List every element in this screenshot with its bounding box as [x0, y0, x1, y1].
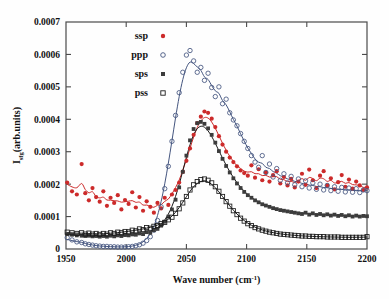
data-point [318, 174, 322, 178]
data-point [289, 210, 293, 214]
data-point [173, 188, 177, 192]
data-point [311, 211, 315, 215]
data-point [210, 133, 214, 137]
data-point [340, 213, 344, 217]
fit-curve-ppp [67, 62, 367, 247]
data-point [127, 202, 131, 206]
data-point [80, 162, 84, 166]
figure-container: 195020002050210021502200 00.00010.00020.… [0, 0, 389, 299]
data-point [253, 160, 257, 164]
data-point [130, 190, 134, 194]
data-point [94, 195, 98, 199]
data-point [296, 211, 300, 215]
data-point [347, 213, 351, 217]
data-point [235, 164, 239, 168]
data-point [199, 120, 203, 124]
data-point [185, 154, 189, 158]
data-point [231, 176, 235, 180]
data-point [148, 205, 152, 209]
data-point [246, 174, 250, 178]
data-point [148, 231, 152, 235]
data-point [343, 214, 347, 218]
data-point [177, 185, 181, 189]
data-point [267, 162, 271, 166]
data-point [70, 189, 74, 193]
y-tick-label: 0.0007 [34, 17, 60, 27]
data-point [206, 126, 210, 130]
data-point [336, 214, 340, 218]
data-point [329, 176, 333, 180]
data-point [141, 232, 145, 236]
data-point [224, 164, 228, 168]
data-point [239, 186, 243, 190]
data-point [123, 198, 127, 202]
x-tick-label: 1950 [57, 254, 76, 264]
data-point [170, 208, 174, 212]
data-point [83, 191, 87, 195]
data-point [318, 212, 322, 216]
data-point [358, 183, 362, 187]
legend-label-ssp: ssp [135, 30, 149, 41]
data-point [224, 97, 228, 101]
data-point [217, 134, 221, 138]
data-point [336, 180, 340, 184]
data-point [253, 176, 257, 180]
legend-label-ppp: ppp [131, 49, 148, 60]
data-point [333, 213, 337, 217]
x-tick-label: 2200 [358, 254, 377, 264]
data-point [325, 212, 329, 216]
y-tick-label: 0.0006 [34, 50, 60, 60]
data-point [307, 213, 311, 217]
series-ssp [65, 109, 369, 214]
data-point [217, 149, 221, 153]
data-point [188, 138, 192, 142]
y-tick-labels: 00.00010.00020.00030.00040.00050.00060.0… [34, 17, 60, 254]
data-point [119, 207, 123, 211]
data-point [181, 170, 185, 174]
data-point [192, 133, 196, 137]
data-point [250, 196, 254, 200]
x-tick-label: 2100 [237, 254, 256, 264]
data-point [163, 186, 167, 190]
data-point [177, 180, 181, 184]
data-point [286, 209, 290, 213]
data-point [238, 168, 242, 172]
x-tick-label: 2000 [117, 254, 136, 264]
data-point [260, 202, 264, 206]
data-point [347, 178, 351, 182]
data-point [228, 155, 232, 159]
data-point [271, 206, 275, 210]
data-point [300, 212, 304, 216]
legend-label-pss: pss [135, 87, 148, 98]
data-point [278, 208, 282, 212]
data-point [174, 198, 178, 202]
x-tick-label: 2050 [177, 254, 196, 264]
data-point [210, 117, 214, 121]
data-point [268, 205, 272, 209]
y-tick-label: 0.0004 [34, 115, 60, 125]
data-point [267, 179, 271, 183]
data-point [199, 115, 203, 119]
legend-marker-sps [161, 72, 165, 76]
data-point [329, 214, 333, 218]
y-tick-label: 0 [55, 244, 60, 254]
data-point [134, 233, 138, 237]
data-point [137, 195, 141, 199]
data-point [307, 167, 311, 171]
data-point [152, 211, 156, 215]
data-point [253, 198, 257, 202]
legend: ssppppspspss [131, 30, 165, 98]
data-point [221, 157, 225, 161]
data-point [246, 193, 250, 197]
data-point [307, 186, 311, 190]
data-point [322, 213, 326, 217]
data-point [213, 141, 217, 145]
data-point [340, 173, 344, 177]
data-point [202, 78, 206, 82]
data-point [75, 192, 79, 196]
data-point [184, 159, 188, 163]
data-point [257, 200, 261, 204]
data-point [282, 209, 286, 213]
data-point [365, 214, 369, 218]
data-point [134, 205, 138, 209]
